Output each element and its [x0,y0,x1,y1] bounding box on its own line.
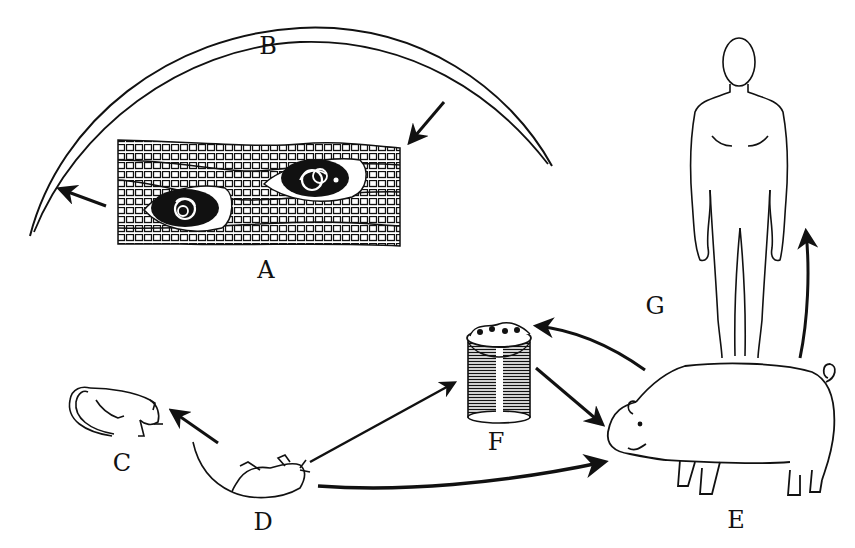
garbage-pail-F [467,323,531,423]
label-G: G [645,294,664,318]
pig-E [608,364,835,495]
muscle-tissue-A [118,140,400,246]
arrow-F-to-E [536,368,602,424]
label-B: B [259,34,277,58]
label-A: A [257,258,274,282]
rat-D [193,442,310,498]
arrow-B-to-A [410,102,444,142]
label-E: E [727,508,745,532]
arrow-D-to-E [318,462,604,488]
arrow-A-to-B [60,189,106,206]
arrow-E-to-F [537,326,645,370]
arrow-E-to-G [800,232,808,358]
arrow-D-to-F [310,383,454,462]
label-F: F [488,430,505,454]
cat-C [69,387,163,436]
label-C: C [113,451,131,475]
label-D: D [253,510,272,534]
arrow-D-to-C [172,411,218,443]
human-G [691,38,787,358]
